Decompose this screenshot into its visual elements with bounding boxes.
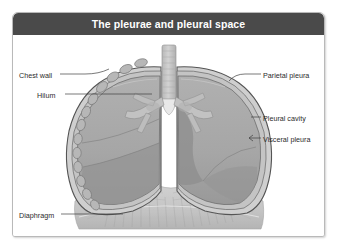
label-parietal-pleura: Parietal pleura [263,71,309,80]
figure-title: The pleurae and pleural space [92,18,245,30]
right-hemithorax [177,67,272,215]
diagram-area: Chest wall Hilum Diaphragm Parietal pleu… [13,35,324,236]
label-diaphragm: Diaphragm [19,211,54,220]
figure-header: The pleurae and pleural space [13,13,324,35]
label-hilum: Hilum [37,91,55,100]
label-visceral-pleura: Visceral pleura [263,135,310,144]
leader-chest-wall [60,69,109,74]
figure-card: The pleurae and pleural space [12,12,325,237]
label-pleural-cavity: Pleural cavity [263,114,306,123]
label-chest-wall: Chest wall [19,71,52,80]
